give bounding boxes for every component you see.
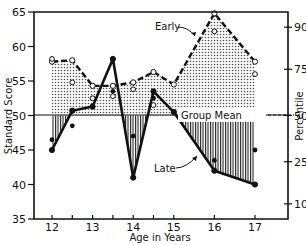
x-tick-label: 17: [248, 221, 262, 234]
y2-tick-label: 75: [294, 63, 306, 76]
x-axis-title: Age in Years: [129, 232, 190, 243]
y-tick-label: 50: [12, 110, 26, 123]
open-marker: [212, 29, 217, 34]
y2-tick-label: 90: [294, 21, 306, 34]
open-marker: [90, 96, 95, 101]
late-point: [252, 182, 257, 187]
y-tick-label: 55: [12, 75, 26, 88]
filled-marker: [111, 89, 116, 94]
late-label: Late: [154, 163, 176, 174]
open-marker: [50, 57, 55, 62]
filled-marker: [253, 148, 258, 153]
early-point: [171, 82, 176, 87]
early-arrow: [178, 27, 195, 36]
early-point: [252, 59, 257, 64]
x-tick-label: 12: [45, 221, 59, 234]
filled-marker: [131, 134, 136, 139]
y2-tick-label: 10: [294, 198, 306, 211]
y2-axis-title: Percentile: [294, 91, 305, 140]
late-point: [49, 147, 54, 152]
y-tick-label: 60: [12, 41, 26, 54]
y-tick-label: 45: [12, 144, 26, 157]
open-marker: [70, 80, 75, 85]
early-label: Early: [155, 21, 180, 32]
early-point: [90, 83, 95, 88]
late-point: [110, 56, 115, 61]
late-point: [212, 168, 217, 173]
late-point: [90, 104, 95, 109]
open-marker: [111, 94, 116, 99]
early-point: [70, 58, 75, 63]
y-axis-title: Standard Score: [3, 78, 14, 155]
y2-tick-label: 25: [294, 156, 306, 169]
open-marker: [151, 103, 156, 108]
early-point: [110, 83, 115, 88]
y-tick-label: 65: [12, 6, 26, 19]
late-point: [151, 89, 156, 94]
group-mean-label: Group Mean: [181, 110, 242, 121]
open-marker: [253, 72, 258, 77]
late-point: [131, 175, 136, 180]
late-point: [171, 109, 176, 114]
filled-marker: [70, 123, 75, 128]
late-point: [70, 108, 75, 113]
filled-marker: [50, 137, 55, 142]
x-tick-label: 13: [86, 221, 100, 234]
filled-marker: [151, 96, 156, 101]
y-tick-label: 40: [12, 179, 26, 192]
early-point: [131, 80, 136, 85]
filled-marker: [212, 158, 217, 163]
open-marker: [131, 87, 136, 92]
early-point: [151, 69, 156, 74]
x-tick-label: 16: [207, 221, 221, 234]
y-tick-label: 35: [12, 213, 26, 226]
chart: 354045505560659075502510121314151617 Gro…: [0, 0, 306, 245]
